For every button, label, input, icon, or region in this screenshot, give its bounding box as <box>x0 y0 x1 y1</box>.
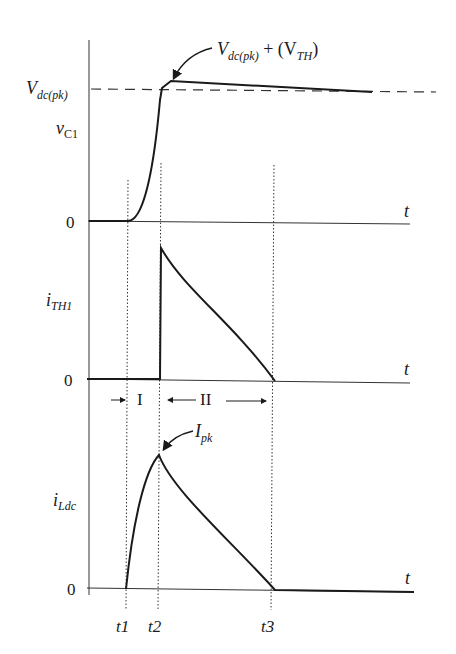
time-marker-guides <box>126 163 274 610</box>
ith1-zero-label: 0 <box>64 371 73 390</box>
ildc-time-label: t <box>405 568 411 588</box>
vdc-pk-level-label: Vdc(pk) <box>26 78 68 102</box>
vdc-annotation-arrow <box>174 48 212 78</box>
interval-i-label: I <box>137 390 143 409</box>
interval-ii-label: II <box>200 390 212 409</box>
panel-ith1: iTH1 0 t I II <box>46 248 410 409</box>
ildc-zero-label: 0 <box>67 580 76 599</box>
vc1-waveform <box>89 81 372 221</box>
panel-ildc: Ipk iLdc 0 t <box>53 421 414 599</box>
vc1-time-axis <box>88 221 410 224</box>
vdc-pk-reference-line <box>91 89 436 92</box>
vdc-annotation-label: Vdc(pk) + (VTH) <box>217 39 318 63</box>
t3-guide <box>271 165 274 610</box>
ildc-signal-label: iLdc <box>53 490 77 513</box>
vc1-signal-label: vC1 <box>56 118 78 141</box>
t2-guide <box>158 163 161 610</box>
ith1-time-label: t <box>404 359 410 379</box>
t1-label: t1 <box>116 617 129 636</box>
vc1-zero-label: 0 <box>66 213 75 232</box>
vc1-time-label: t <box>404 201 410 221</box>
ildc-waveform <box>126 455 414 592</box>
panel-vc1: Vdc(pk) + (VTH) Vdc(pk) vC1 0 t <box>26 39 436 232</box>
t2-label: t2 <box>148 617 162 636</box>
ith1-signal-label: iTH1 <box>46 290 72 313</box>
t1-guide <box>126 180 128 610</box>
ipk-annotation-arrow <box>164 431 193 449</box>
t3-label: t3 <box>261 617 274 636</box>
waveform-diagram: Vdc(pk) + (VTH) Vdc(pk) vC1 0 t iTH1 0 t… <box>0 0 456 654</box>
ipk-annotation-label: Ipk <box>194 421 213 445</box>
time-marker-labels: t1 t2 t3 <box>116 617 274 636</box>
ith1-waveform <box>87 248 275 381</box>
